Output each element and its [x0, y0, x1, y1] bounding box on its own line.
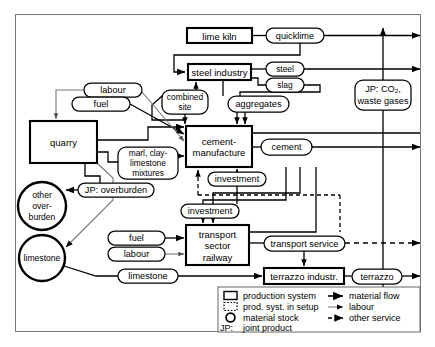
flow-label-jp-co2[interactable]: JP: CO₂,waste gases	[355, 80, 411, 110]
legend-other-service-label: other service	[349, 313, 401, 323]
other-overburden-label: otherover-burden	[29, 190, 56, 221]
production-system-steel-industry[interactable]: steel industry	[188, 64, 251, 80]
fuel-quarry-label: fuel	[94, 99, 109, 109]
flow-label-slag[interactable]: slag	[266, 78, 304, 92]
legend-dotted-rect-icon	[224, 303, 237, 311]
quicklime-label: quicklime	[276, 31, 314, 41]
labour-quarry-label: labour	[100, 85, 126, 95]
marl-clay-label: marl, clay-limestonemixtures	[129, 148, 168, 179]
legend-setup-system-label: prod. syst. in setup	[243, 302, 319, 312]
flow-label-transport-service[interactable]: transport service	[264, 236, 345, 251]
material-stock-other-overburden[interactable]: otherover-burden	[18, 182, 66, 230]
slag-label: slag	[277, 80, 293, 90]
material-stock-limestone-stock[interactable]: limestone	[19, 235, 65, 281]
flow-label-marl-clay[interactable]: marl, clay-limestonemixtures	[118, 147, 178, 179]
production-system-transport-sector[interactable]: transportsectorrailway	[186, 225, 249, 265]
fuel-transport-label: fuel	[129, 233, 144, 243]
investment-1-label: investment	[215, 174, 260, 184]
legend-joint-product: JP:joint product	[220, 323, 293, 333]
lime-kiln-label: lime kiln	[202, 30, 236, 41]
steel-label: steel	[276, 64, 294, 74]
diagram-stage: lime kilnsteel industryquarrycement-manu…	[0, 0, 435, 347]
flow-label-fuel-quarry[interactable]: fuel	[72, 97, 130, 111]
legend-solid-rect-icon	[224, 292, 237, 300]
flow-diagram: lime kilnsteel industryquarrycement-manu…	[0, 0, 435, 347]
legend-circle-icon	[226, 313, 235, 322]
legend-layer: production systemprod. syst. in setupmat…	[218, 287, 420, 333]
flow-label-investment-1[interactable]: investment	[208, 172, 266, 186]
flow-label-labour-transport[interactable]: labour	[108, 247, 165, 261]
jp-overburden-label: JP: overburden	[85, 185, 147, 195]
aggregates-label: aggregates	[236, 99, 282, 109]
legend-joint-product-label: joint product	[242, 323, 293, 333]
terrazzo-label: terrazzo	[360, 272, 393, 282]
legend-production-system-label: production system	[243, 291, 316, 301]
flow-label-aggregates[interactable]: aggregates	[228, 96, 289, 112]
cement-label: cement	[271, 142, 302, 152]
flow-label-labour-quarry[interactable]: labour	[84, 83, 142, 97]
flow-label-combined-site[interactable]: combinedsite	[162, 90, 208, 114]
flow-label-cement[interactable]: cement	[261, 139, 312, 155]
flow-label-quicklime[interactable]: quicklime	[266, 28, 324, 43]
flow-label-jp-overburden[interactable]: JP: overburden	[78, 183, 154, 197]
legend-material-stock-label: material stock	[243, 313, 299, 323]
legend-material-flow-label: material flow	[349, 291, 400, 301]
flow-label-limestone-flow[interactable]: limestone	[118, 269, 178, 283]
investment-2-label: investment	[188, 206, 233, 216]
production-system-lime-kiln[interactable]: lime kiln	[187, 28, 252, 43]
steel-industry-label: steel industry	[192, 67, 248, 78]
flow-label-terrazzo[interactable]: terrazzo	[352, 269, 402, 284]
legend-labour-label: labour	[349, 302, 374, 312]
flow-label-investment-2[interactable]: investment	[181, 204, 239, 218]
transport-service-label: transport service	[271, 239, 339, 249]
flow-label-fuel-transport[interactable]: fuel	[108, 231, 165, 245]
production-system-cement-manufacture[interactable]: cement-manufacture	[186, 126, 252, 167]
terrazzo-industr-label: terrazzo industr.	[270, 271, 338, 282]
limestone-flow-label: limestone	[128, 271, 167, 281]
limestone-stock-label: limestone	[24, 253, 61, 263]
production-system-terrazzo-industr[interactable]: terrazzo industr.	[264, 268, 344, 284]
quarry-label: quarry	[50, 137, 77, 148]
production-system-quarry[interactable]: quarry	[30, 121, 97, 163]
flow-label-steel[interactable]: steel	[266, 62, 304, 76]
legend-jp-prefix: JP:	[220, 323, 233, 333]
labour-transport-label: labour	[124, 249, 150, 259]
